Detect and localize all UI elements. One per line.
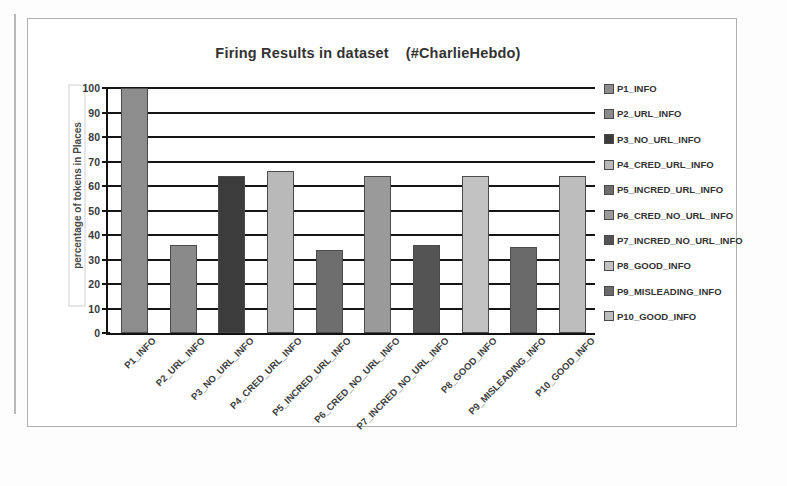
bar [267,171,294,333]
scanned-page: Firing Results in dataset (#CharlieHebdo… [0,0,787,486]
legend-item[interactable]: P5_INCRED_URL_INFO [604,177,760,202]
legend-label: P4_CRED_URL_INFO [617,159,714,170]
legend-label: P2_URL_INFO [617,108,681,119]
legend-label: P8_GOOD_INFO [617,260,691,271]
plot-area [106,88,595,335]
legend-label: P10_GOOD_INFO [617,311,696,322]
bar-series [108,88,595,333]
legend-item[interactable]: P10_GOOD_INFO [604,304,760,329]
legend-swatch-icon [604,160,614,170]
bar [510,247,537,333]
bar [364,176,391,333]
y-axis-tick-label: 40 [70,229,100,241]
legend-swatch-icon [604,109,614,119]
legend-swatch-icon [604,311,614,321]
x-axis-tick-labels: P1_INFOP2_URL_INFOP3_NO_URL_INFOP4_CRED_… [106,335,606,445]
legend-item[interactable]: P1_INFO [604,76,760,101]
bar [413,245,440,333]
y-axis-tick-label: 0 [70,327,100,339]
y-axis-tick-label: 70 [70,156,100,168]
chart-title: Firing Results in dataset (#CharlieHebdo… [148,45,588,61]
x-axis-tick-label: P2_URL_INFO [154,335,207,388]
legend-swatch-icon [604,84,614,94]
legend-swatch-icon [604,134,614,144]
y-axis-tick-label: 20 [70,278,100,290]
y-axis-tick-labels: 1009080706050403020100 [68,88,100,333]
y-axis-tick-label: 10 [70,303,100,315]
y-axis-tick-label: 30 [70,254,100,266]
legend-swatch-icon [604,286,614,296]
legend-label: P5_INCRED_URL_INFO [617,184,723,195]
legend-item[interactable]: P3_NO_URL_INFO [604,127,760,152]
legend-item[interactable]: P8_GOOD_INFO [604,253,760,278]
legend-label: P1_INFO [617,83,657,94]
bar [559,176,586,333]
legend-item[interactable]: P9_MISLEADING_INFO [604,278,760,303]
bar [121,88,148,333]
chart-legend: P1_INFOP2_URL_INFOP3_NO_URL_INFOP4_CRED_… [604,76,760,329]
legend-label: P9_MISLEADING_INFO [617,286,722,297]
y-axis-tick-label: 50 [70,205,100,217]
legend-item[interactable]: P7_INCRED_NO_URL_INFO [604,228,760,253]
legend-label: P7_INCRED_NO_URL_INFO [617,235,743,246]
legend-swatch-icon [604,210,614,220]
x-axis-tick-label: P6_CRED_NO_URL_INFO [312,335,402,425]
legend-swatch-icon [604,261,614,271]
bar [218,176,245,333]
y-axis-tick-label: 90 [70,107,100,119]
legend-item[interactable]: P6_CRED_NO_URL_INFO [604,202,760,227]
bar [316,250,343,333]
y-axis-tick-label: 100 [70,82,100,94]
legend-swatch-icon [604,235,614,245]
y-axis-tick-label: 80 [70,131,100,143]
chart-frame: Firing Results in dataset (#CharlieHebdo… [27,18,737,427]
page-margin-rule [14,14,16,414]
legend-item[interactable]: P4_CRED_URL_INFO [604,152,760,177]
legend-label: P3_NO_URL_INFO [617,134,701,145]
y-axis-tick-label: 60 [70,180,100,192]
legend-label: P6_CRED_NO_URL_INFO [617,210,733,221]
legend-item[interactable]: P2_URL_INFO [604,101,760,126]
x-axis-tick-label: P1_INFO [122,335,158,371]
x-axis-tick-label: P7_INCRED_NO_URL_INFO [354,335,451,432]
legend-swatch-icon [604,185,614,195]
bar [462,176,489,333]
bar [170,245,197,333]
